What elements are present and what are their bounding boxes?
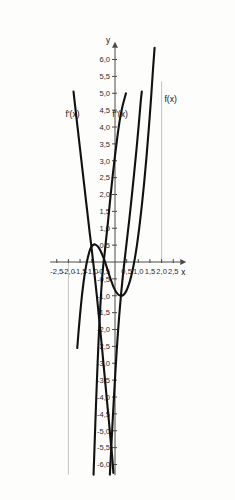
y-tick-label: 2,0 [99, 190, 110, 199]
y-tick-label: -3,5 [97, 376, 110, 385]
y-tick-label: 4,0 [99, 123, 110, 132]
y-tick-label: 2,5 [99, 173, 110, 182]
x-axis-name: x [181, 268, 185, 277]
function-plot: -2,5-2,0-1,5-1,0-0,50,51,01,52,02,5-6,0-… [0, 0, 235, 500]
y-tick-label: -1,0 [97, 292, 110, 301]
y-tick-label: 6,0 [99, 55, 110, 64]
x-tick-label: 1,5 [145, 267, 156, 276]
curve-f-x [77, 48, 154, 348]
y-tick-label: 4,5 [99, 106, 110, 115]
x-tick-label: 2,5 [168, 267, 179, 276]
axes [50, 42, 186, 476]
y-tick-label: -5,5 [97, 443, 110, 452]
y-tick-label: -6,0 [97, 460, 110, 469]
y-tick-label: 5,5 [99, 72, 110, 81]
y-tick-label: -5,0 [97, 427, 110, 436]
y-tick-label: 3,5 [99, 140, 110, 149]
curve-labels: f(x)f''(x)f'(x) [66, 94, 177, 119]
y-tick-label: 3,0 [99, 157, 110, 166]
y-axis-arrow [112, 42, 118, 48]
curve-label-f-x: f''(x) [112, 109, 128, 119]
x-tick-label: 2,0 [156, 267, 167, 276]
x-axis-arrow [180, 259, 186, 265]
y-tick-label: 5,0 [99, 89, 110, 98]
curve-label-f-x: f(x) [164, 94, 177, 104]
y-axis-name: y [106, 36, 111, 45]
x-tick-label: 1,0 [133, 267, 144, 276]
y-tick-label: -0,5 [97, 275, 110, 284]
plot-canvas: -2,5-2,0-1,5-1,0-0,50,51,01,52,02,5-6,0-… [0, 0, 235, 500]
y-tick-label: -4,0 [97, 393, 110, 402]
curve-label-f-x: f'(x) [66, 109, 80, 119]
